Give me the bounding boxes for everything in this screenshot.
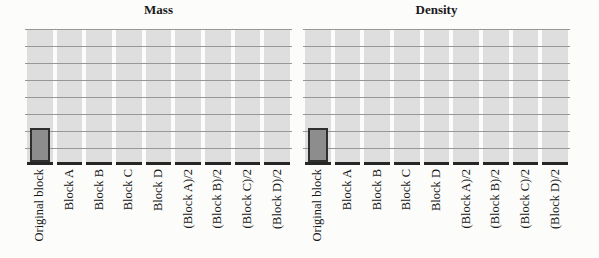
x-label-cell: Block B bbox=[364, 169, 390, 242]
mass-chart-title: Mass bbox=[27, 2, 290, 18]
x-label-block-c: Block C bbox=[122, 169, 135, 210]
x-label-cell: (Block D)/2 bbox=[264, 169, 290, 242]
x-label-cell: (Block A)/2 bbox=[453, 169, 479, 242]
grid-column-block-b-2 bbox=[483, 29, 509, 165]
x-label-block-b: Block B bbox=[371, 169, 384, 210]
data-bar-original-block bbox=[30, 128, 50, 162]
x-label-cell: Block C bbox=[116, 169, 142, 242]
x-label-cell: Block C bbox=[394, 169, 420, 242]
x-label-block-c-2: (Block C)/2 bbox=[241, 169, 254, 228]
data-bar-original-block bbox=[308, 128, 328, 162]
grid-column-original-block bbox=[27, 29, 53, 165]
grid-column-block-a-2 bbox=[453, 29, 479, 165]
x-label-cell: Block B bbox=[86, 169, 112, 242]
density-grid-columns bbox=[305, 29, 568, 165]
density-plot-grid bbox=[305, 29, 568, 165]
x-label-block-d: Block D bbox=[152, 169, 165, 211]
x-label-cell: Block A bbox=[57, 169, 83, 242]
density-chart-title: Density bbox=[305, 2, 568, 18]
grid-column-block-c-2 bbox=[513, 29, 539, 165]
mass-chart: Mass Original blockBlock ABlock BBlock C… bbox=[27, 0, 290, 258]
grid-column-block-b-2 bbox=[205, 29, 231, 165]
grid-column-block-c bbox=[394, 29, 420, 165]
x-label-block-a-2: (Block A)/2 bbox=[460, 169, 473, 228]
x-label-original-block: Original block bbox=[311, 169, 324, 242]
x-label-cell: Block D bbox=[424, 169, 450, 242]
density-x-axis-labels: Original blockBlock ABlock BBlock CBlock… bbox=[305, 169, 568, 242]
grid-column-block-c-2 bbox=[235, 29, 261, 165]
x-label-block-b-2: (Block B)/2 bbox=[489, 169, 502, 228]
x-label-cell: Original block bbox=[305, 169, 331, 242]
x-label-block-c: Block C bbox=[400, 169, 413, 210]
x-label-block-a-2: (Block A)/2 bbox=[182, 169, 195, 228]
grid-column-block-d-2 bbox=[542, 29, 568, 165]
grid-column-block-d-2 bbox=[264, 29, 290, 165]
grid-column-block-b bbox=[364, 29, 390, 165]
x-label-cell: (Block D)/2 bbox=[542, 169, 568, 242]
grid-column-block-d bbox=[146, 29, 172, 165]
x-label-block-b: Block B bbox=[93, 169, 106, 210]
grid-column-block-c bbox=[116, 29, 142, 165]
x-label-block-b-2: (Block B)/2 bbox=[211, 169, 224, 228]
grid-column-block-a bbox=[335, 29, 361, 165]
grid-column-original-block bbox=[305, 29, 331, 165]
x-label-block-a: Block A bbox=[341, 169, 354, 210]
grid-column-block-d bbox=[424, 29, 450, 165]
x-label-block-d: Block D bbox=[430, 169, 443, 211]
mass-grid-columns bbox=[27, 29, 290, 165]
x-label-cell: (Block A)/2 bbox=[175, 169, 201, 242]
grid-column-block-a bbox=[57, 29, 83, 165]
x-label-block-a: Block A bbox=[63, 169, 76, 210]
grid-column-block-a-2 bbox=[175, 29, 201, 165]
x-label-cell: Original block bbox=[27, 169, 53, 242]
x-label-block-d-2: (Block D)/2 bbox=[271, 169, 284, 229]
mass-plot-grid bbox=[27, 29, 290, 165]
x-label-cell: (Block C)/2 bbox=[513, 169, 539, 242]
x-label-cell: (Block C)/2 bbox=[235, 169, 261, 242]
grid-column-block-b bbox=[86, 29, 112, 165]
density-chart: Density Original blockBlock ABlock BBloc… bbox=[305, 0, 568, 258]
mass-x-axis-labels: Original blockBlock ABlock BBlock CBlock… bbox=[27, 169, 290, 242]
x-label-cell: Block A bbox=[335, 169, 361, 242]
x-label-cell: Block D bbox=[146, 169, 172, 242]
x-label-original-block: Original block bbox=[33, 169, 46, 242]
x-label-block-c-2: (Block C)/2 bbox=[519, 169, 532, 228]
x-label-cell: (Block B)/2 bbox=[483, 169, 509, 242]
x-label-block-d-2: (Block D)/2 bbox=[549, 169, 562, 229]
x-label-cell: (Block B)/2 bbox=[205, 169, 231, 242]
